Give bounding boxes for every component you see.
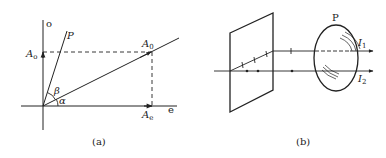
p-line-label: P	[66, 30, 74, 41]
beam-i2-label: I2	[357, 73, 366, 86]
panel-b: P I1 I2 (b)	[214, 12, 373, 147]
e-axis-label: e	[168, 104, 174, 115]
e-component-label: Ae	[141, 109, 153, 122]
beam-i1-label: I1	[357, 37, 366, 50]
tick-mark	[242, 62, 243, 68]
tick-mark	[254, 57, 255, 63]
panel-a: o e P A0 Ao Ae β α (a)	[21, 18, 179, 147]
caption-a: (a)	[92, 136, 106, 147]
resultant-vector-arrow	[140, 52, 151, 58]
o-component-label: Ao	[25, 48, 37, 61]
dot-mark	[291, 70, 294, 73]
crystal-plate	[230, 13, 273, 112]
tick-mark	[266, 51, 267, 57]
o-axis-label: o	[46, 18, 52, 29]
dot-mark	[246, 70, 249, 73]
diagram-canvas: o e P A0 Ao Ae β α (a)	[0, 0, 386, 158]
surface-hatch-lower	[322, 65, 339, 79]
caption-b: (b)	[296, 136, 310, 147]
analyzer-label: P	[332, 12, 339, 23]
dot-mark	[257, 70, 260, 73]
alpha-arc	[56, 99, 58, 106]
alpha-label: α	[59, 95, 66, 106]
resultant-label: A0	[141, 38, 154, 51]
analyzer-p	[314, 25, 358, 91]
